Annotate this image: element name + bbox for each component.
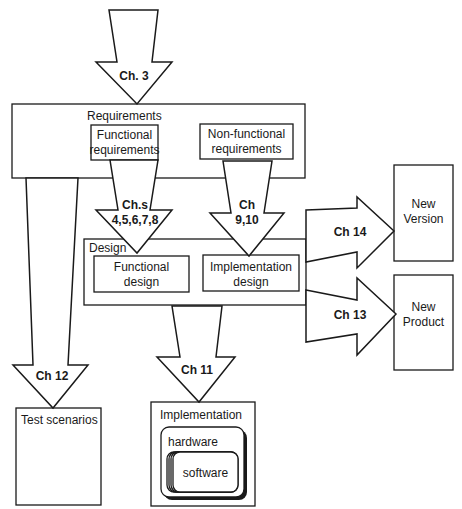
new-version-line2: Version	[403, 212, 443, 226]
implementation-label: Implementation	[160, 408, 242, 422]
requirements-label: Requirements	[87, 109, 162, 123]
functional-design-line2: design	[124, 275, 159, 289]
chapter-map-diagram: Requirements Functional requirements Non…	[0, 0, 462, 509]
software-stack: software	[167, 452, 238, 492]
arrow-ch11: Ch 11	[157, 306, 235, 402]
arrow-ch13-label: Ch 13	[334, 308, 367, 322]
arrow-ch910-line1: Ch	[239, 198, 255, 212]
design-label: Design	[89, 241, 126, 255]
nonfunctional-requirements-line1: Non-functional	[208, 127, 285, 141]
functional-requirements-line1: Functional	[97, 128, 152, 142]
software-label: software	[183, 466, 229, 480]
arrow-ch910-line2: 9,10	[235, 213, 259, 227]
arrow-ch3: Ch. 3	[96, 10, 172, 104]
arrow-ch11-label: Ch 11	[181, 363, 213, 377]
arrow-chs-line2: 4,5,6,7,8	[112, 213, 159, 227]
new-product-box: New Product	[394, 275, 453, 370]
arrow-ch12: Ch 12	[13, 178, 88, 408]
arrow-ch12-label: Ch 12	[36, 369, 69, 383]
test-scenarios-label: Test scenarios	[21, 413, 98, 427]
implementation-design-box: Implementation design	[203, 255, 299, 291]
nonfunctional-requirements-line2: requirements	[211, 142, 281, 156]
arrow-ch14-label: Ch 14	[334, 225, 367, 239]
new-product-line2: Product	[403, 315, 445, 329]
functional-design-box: Functional design	[94, 256, 189, 292]
implementation-design-line2: design	[233, 275, 268, 289]
arrow-chs-line1: Ch.s	[122, 198, 148, 212]
implementation-design-line1: Implementation	[210, 260, 292, 274]
hardware-label: hardware	[168, 435, 218, 449]
functional-requirements-box: Functional requirements	[89, 125, 159, 160]
test-scenarios-box: Test scenarios	[16, 408, 101, 505]
new-version-line1: New	[411, 197, 435, 211]
arrow-ch14: Ch 14	[306, 197, 394, 268]
functional-design-line1: Functional	[114, 260, 169, 274]
new-version-box: New Version	[394, 165, 453, 261]
functional-requirements-line2: requirements	[89, 143, 159, 157]
new-product-line1: New	[411, 300, 435, 314]
nonfunctional-requirements-box: Non-functional requirements	[200, 124, 293, 159]
arrow-ch3-label: Ch. 3	[119, 69, 149, 83]
arrow-ch13: Ch 13	[306, 278, 396, 355]
